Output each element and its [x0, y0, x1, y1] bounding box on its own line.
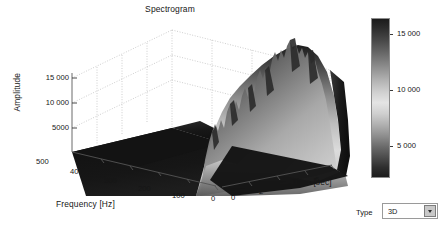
- frequency-axis-title: Frequency [Hz]: [56, 200, 115, 208]
- colorbar[interactable]: 15 000 10 000 5 000: [371, 18, 444, 178]
- type-control: Type 3D: [356, 203, 442, 222]
- time-tick-0: 0: [231, 194, 235, 202]
- colorbar-tick-15000: [390, 34, 393, 35]
- time-axis-title: Time [sec]: [292, 178, 332, 186]
- amplitude-axis-ticks: [72, 78, 77, 128]
- colorbar-tick-5000: [390, 146, 393, 147]
- time-tick-4: 4: [287, 182, 291, 190]
- type-select-value: 3D: [388, 207, 397, 216]
- amplitude-tick-15000: 15 000: [28, 74, 69, 82]
- frequency-tick-100: 100: [172, 192, 185, 200]
- frequency-tick-200: 200: [138, 185, 151, 193]
- colorbar-tick-10000: [390, 90, 393, 91]
- type-select[interactable]: 3D: [382, 203, 438, 219]
- frequency-tick-300: 300: [104, 177, 117, 185]
- chevron-down-icon[interactable]: [424, 205, 436, 217]
- colorbar-label-5000: 5 000: [397, 142, 416, 150]
- frequency-tick-500: 500: [36, 158, 49, 166]
- amplitude-tick-10000: 10 000: [28, 99, 69, 107]
- time-tick-8: 8: [341, 170, 345, 178]
- amplitude-tick-5000: 5000: [28, 124, 69, 132]
- spectrogram-figure: Spectrogram: [0, 0, 444, 231]
- frequency-tick-0: 0: [211, 195, 215, 203]
- plot-area[interactable]: Amplitude 15 000 10 000 5000 500 400 300…: [0, 0, 356, 196]
- colorbar-label-15000: 15 000: [397, 30, 420, 38]
- type-label: Type: [356, 208, 372, 217]
- colorbar-gradient: [371, 18, 390, 178]
- surface-mesh: [72, 38, 350, 196]
- amplitude-axis-title: Amplitude: [13, 62, 21, 122]
- time-tick-2: 2: [259, 188, 263, 196]
- frequency-tick-400: 400: [70, 168, 83, 176]
- colorbar-label-10000: 10 000: [397, 86, 420, 94]
